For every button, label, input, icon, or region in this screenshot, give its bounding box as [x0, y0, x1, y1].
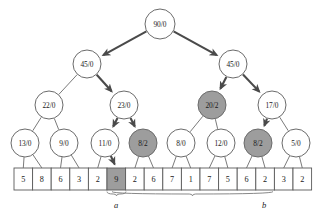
bold-edge-n0-n1	[103, 31, 146, 55]
brace-b	[112, 192, 273, 196]
array-cell-value: 2	[300, 175, 304, 184]
bold-edge-n6-n13	[264, 119, 267, 126]
node-label: 23/0	[117, 101, 130, 110]
tree-node: 22/0	[35, 91, 63, 119]
bold-edge-n1-n4	[97, 75, 112, 92]
leaf-connector-n7-0	[23, 157, 24, 167]
tree-node: 90/0	[145, 9, 175, 39]
array-cell-value: 2	[133, 175, 137, 184]
tree-node: 45/0	[73, 50, 101, 78]
leaf-connector-n11-9	[186, 157, 190, 168]
tree-node: 5/0	[282, 129, 310, 157]
edge-n5-n12	[215, 119, 217, 129]
leaf-connector-n10-7	[149, 156, 154, 167]
node-label: 12/0	[214, 139, 227, 148]
leaf-connector-n11-8	[172, 157, 176, 168]
leaf-connector-n8-3	[72, 155, 79, 167]
leaf-connector-n9-4	[98, 157, 101, 168]
node-label: 8/2	[253, 139, 263, 148]
edge-n1-n3	[59, 75, 77, 95]
tree-node: 11/0	[91, 129, 119, 157]
array-cell-value: 5	[21, 175, 25, 184]
edge-n5-n11	[190, 116, 203, 132]
array-cell-value: 6	[244, 175, 248, 184]
leaf-connector-n12-10	[210, 156, 215, 167]
tree-node: 12/0	[207, 129, 235, 157]
bold-edge-n2-n5	[220, 77, 226, 89]
range-braces: ab	[107, 192, 273, 210]
array-cell-value: 1	[189, 175, 193, 184]
node-label: 13/0	[18, 139, 31, 148]
array-cell-value: 3	[77, 175, 81, 184]
bold-leaf-connector-n9-5	[111, 156, 114, 164]
leaf-connector-n10-6	[135, 157, 138, 168]
leaf-connector-n8-2	[61, 157, 62, 167]
tree-node: 8/0	[167, 129, 195, 157]
leaf-connector-n13-12	[247, 156, 252, 167]
node-label: 90/0	[153, 20, 166, 29]
bold-edge-n4-n10	[130, 118, 134, 126]
node-label: 9/0	[59, 139, 69, 148]
bold-edge-n2-n6	[243, 75, 259, 92]
leaf-connector-n7-1	[33, 155, 42, 168]
node-label: 11/0	[99, 139, 112, 148]
leaf-connector-n14-15	[300, 157, 303, 167]
array-cell-value: 5	[226, 175, 230, 184]
node-label: 5/0	[291, 139, 301, 148]
brace-b-label: b	[262, 200, 266, 210]
bold-edge-n4-n9	[113, 118, 117, 126]
tree-node: 17/0	[258, 91, 286, 119]
leaf-connector-n14-14	[284, 156, 290, 168]
node-label: 20/2	[205, 101, 218, 110]
bold-edge-n0-n2	[174, 31, 217, 55]
node-label: 8/2	[138, 139, 148, 148]
tree-nodes: 90/045/045/022/023/020/217/013/09/011/08…	[11, 9, 310, 157]
tree-node-highlighted: 20/2	[198, 91, 226, 119]
node-label: 45/0	[226, 60, 239, 69]
tree-node: 45/0	[219, 50, 247, 78]
tree-node-highlighted: 8/2	[244, 129, 272, 157]
array-cell-value: 2	[96, 175, 100, 184]
node-label: 17/0	[265, 101, 278, 110]
edge-n3-n8	[54, 118, 58, 129]
array-cell-value: 9	[114, 175, 118, 184]
tree-node-highlighted: 8/2	[129, 129, 157, 157]
node-label: 8/0	[176, 139, 186, 148]
edge-n3-n7	[33, 117, 42, 130]
array-cell-value: 8	[40, 175, 44, 184]
array-cells: 5863292671756232	[14, 168, 312, 190]
array-cell-value: 7	[170, 175, 174, 184]
brace-a-label: a	[114, 200, 118, 210]
tree-node: 9/0	[50, 129, 78, 157]
node-label: 45/0	[80, 60, 93, 69]
leaf-connector-n12-11	[225, 157, 228, 168]
array-cell-value: 7	[207, 175, 211, 184]
brace-a	[107, 192, 126, 196]
tree-node: 23/0	[110, 91, 138, 119]
tree-node: 13/0	[11, 129, 39, 157]
node-label: 22/0	[42, 101, 55, 110]
edge-n6-n14	[280, 117, 289, 130]
array-cell-value: 6	[58, 175, 62, 184]
leaf-connector-n13-13	[262, 157, 265, 168]
segment-tree-figure: 90/045/045/022/023/020/217/013/09/011/08…	[0, 0, 320, 219]
array-cell-value: 2	[263, 175, 267, 184]
array-cell-value: 3	[282, 175, 286, 184]
array-cell-value: 6	[151, 175, 155, 184]
